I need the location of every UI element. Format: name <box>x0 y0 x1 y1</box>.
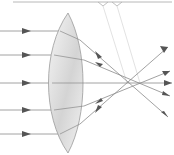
arrow-icon <box>161 111 168 117</box>
lens-diagram-svg <box>0 0 174 155</box>
spherical-aberration-diagram <box>0 0 174 155</box>
focal-range-bracket <box>13 2 172 83</box>
arrow-icon <box>22 28 31 34</box>
arrow-icon <box>22 52 31 58</box>
arrow-icon <box>160 46 168 53</box>
arrow-icon <box>22 107 31 113</box>
arrow-icon <box>162 91 170 96</box>
arrow-icon <box>22 131 31 137</box>
incident-ray-arrows <box>22 28 31 137</box>
arrow-icon <box>22 80 31 86</box>
refracted-rays <box>80 40 172 124</box>
refracted-ray-arrows <box>95 46 172 117</box>
arrow-icon <box>164 80 172 86</box>
